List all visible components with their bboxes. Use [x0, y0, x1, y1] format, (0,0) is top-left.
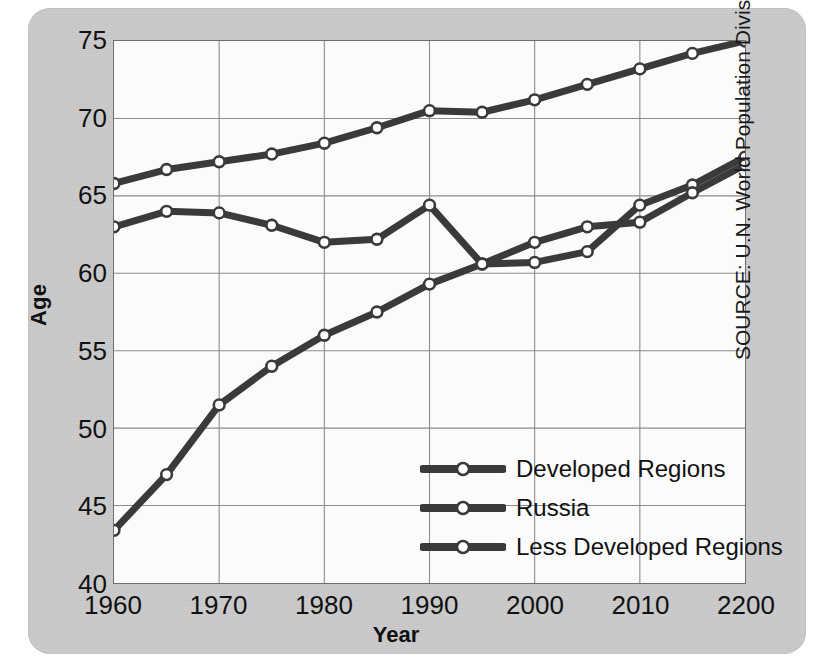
x-tick-label: 2200 [717, 590, 775, 621]
x-axis-tick-labels: 1960197019801990200020102200 [113, 590, 746, 624]
y-tick-label: 55 [59, 335, 107, 366]
data-point [424, 105, 435, 116]
y-tick-label: 65 [59, 180, 107, 211]
y-axis-title: Age [26, 284, 52, 326]
y-tick-label: 75 [59, 25, 107, 56]
data-point [687, 48, 698, 59]
data-point [634, 217, 645, 228]
data-point [266, 149, 277, 160]
data-point [319, 330, 330, 341]
y-tick-label: 45 [59, 491, 107, 522]
legend-item-label: Developed Regions [516, 455, 725, 483]
chart-page: Age 4045505560657075 1960197019801990200… [0, 0, 834, 666]
x-tick-label: 1960 [84, 590, 142, 621]
legend-line-marker-icon [420, 459, 506, 479]
x-tick-label: 2010 [612, 590, 670, 621]
data-point [161, 206, 172, 217]
data-point [214, 208, 225, 219]
data-point [372, 122, 383, 133]
data-point [372, 234, 383, 245]
data-point [372, 307, 383, 318]
data-point [114, 221, 119, 232]
data-point [529, 257, 540, 268]
data-point [687, 187, 698, 198]
data-point [266, 220, 277, 231]
x-tick-label: 2000 [506, 590, 564, 621]
x-axis-title: Year [373, 622, 420, 648]
legend-line-marker-icon [420, 537, 506, 557]
data-point [424, 200, 435, 211]
legend-item-label: Less Developed Regions [516, 533, 783, 561]
x-tick-label: 1990 [401, 590, 459, 621]
data-point [114, 178, 119, 189]
data-point [582, 79, 593, 90]
legend-item-label: Russia [516, 494, 589, 522]
chart-legend: Developed RegionsRussiaLess Developed Re… [420, 455, 783, 561]
data-point [634, 200, 645, 211]
data-point [214, 156, 225, 167]
legend-item[interactable]: Developed Regions [420, 455, 783, 483]
data-point [161, 469, 172, 480]
data-point [161, 164, 172, 175]
data-point [319, 237, 330, 248]
source-note: SOURCE: U.N. World Population Division [731, 0, 755, 360]
y-tick-label: 70 [59, 102, 107, 133]
data-point [477, 259, 488, 270]
y-axis-tick-labels: 4045505560657075 [55, 40, 107, 584]
data-point [529, 237, 540, 248]
data-point [529, 94, 540, 105]
data-point [582, 221, 593, 232]
legend-item[interactable]: Less Developed Regions [420, 533, 783, 561]
data-point [114, 525, 119, 536]
data-point [477, 107, 488, 118]
data-point [214, 400, 225, 411]
data-point [424, 279, 435, 290]
y-tick-label: 50 [59, 413, 107, 444]
x-tick-label: 1980 [295, 590, 353, 621]
legend-item[interactable]: Russia [420, 494, 783, 522]
data-point [319, 138, 330, 149]
x-tick-label: 1970 [190, 590, 248, 621]
y-tick-label: 60 [59, 258, 107, 289]
data-point [634, 63, 645, 74]
legend-line-marker-icon [420, 498, 506, 518]
data-point [582, 246, 593, 257]
data-point [266, 361, 277, 372]
